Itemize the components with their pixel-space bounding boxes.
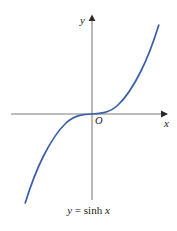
origin-label: O — [95, 116, 103, 127]
plot-canvas — [0, 0, 177, 231]
y-axis-arrowhead — [89, 15, 96, 22]
sinh-function-figure: y x O y = sinh x — [0, 0, 177, 231]
caption-equals: = — [72, 204, 84, 216]
y-axis-label: y — [80, 15, 85, 26]
figure-caption: y = sinh x — [0, 205, 177, 216]
x-axis-label: x — [164, 118, 169, 129]
caption-variable: x — [102, 204, 110, 216]
caption-function-name: sinh — [84, 204, 102, 216]
